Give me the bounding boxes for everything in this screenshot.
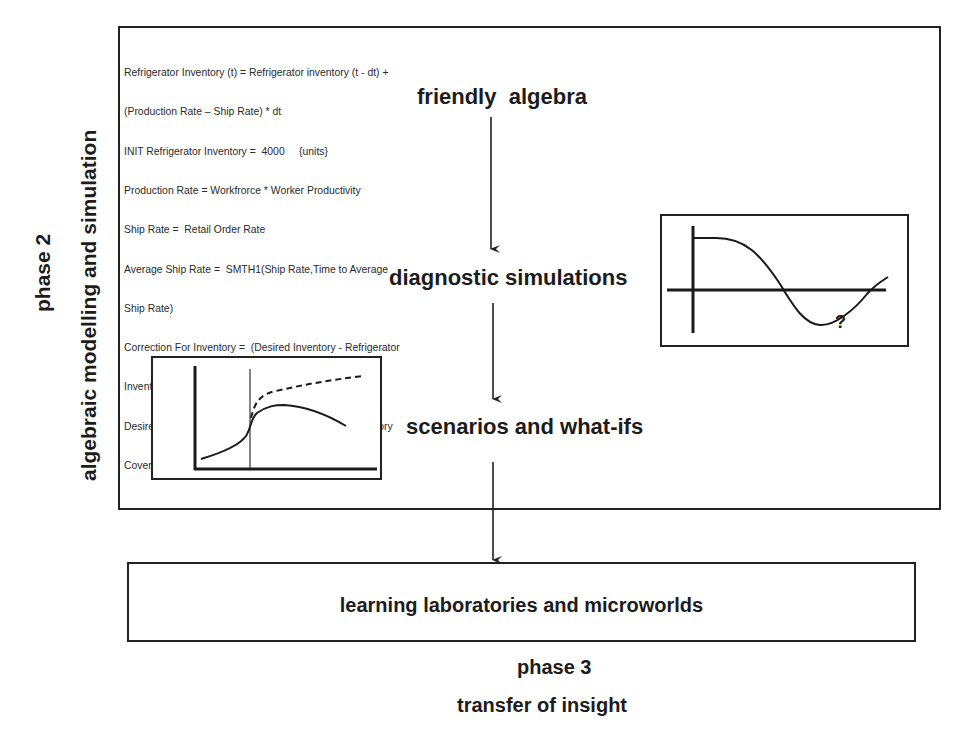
scenario-chart <box>151 356 382 480</box>
question-mark-annotation: ? <box>835 312 846 333</box>
phase3-box-label: learning laboratories and microworlds <box>129 594 914 617</box>
diagnostic-chart <box>660 214 909 347</box>
baseline-curve <box>201 405 346 459</box>
oscillation-curve <box>694 238 888 325</box>
phase3-title: phase 3 <box>517 656 591 679</box>
whatif-curve <box>251 376 363 418</box>
phase3-subtitle: transfer of insight <box>457 694 627 717</box>
phase3-box: learning laboratories and microworlds <box>127 562 916 642</box>
